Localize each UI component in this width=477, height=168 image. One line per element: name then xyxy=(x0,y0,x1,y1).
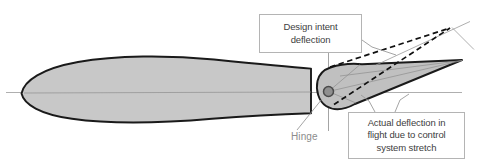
callout-design-intent-line-1: Design intent xyxy=(283,21,337,34)
callout-actual-deflection-line-1: Actual deflection in xyxy=(368,117,446,130)
hinge-pivot xyxy=(324,87,334,97)
callout-design-intent-deflection: Design intent deflection xyxy=(259,14,362,53)
callout-design-intent-line-2: deflection xyxy=(291,34,331,47)
callout-actual-deflection-line-2: flight due to control xyxy=(367,129,445,142)
control-surface-diagram: Design intent deflection Actual deflecti… xyxy=(0,0,477,168)
hinge-label: Hinge xyxy=(291,131,318,142)
actual-deflection-leader-line-secondary xyxy=(395,94,409,112)
callout-actual-deflection: Actual deflection in flight due to contr… xyxy=(348,112,465,159)
callout-actual-deflection-line-3: system stretch xyxy=(377,142,437,155)
design-intent-extension-lines xyxy=(376,22,474,66)
airfoil-body xyxy=(22,56,312,122)
